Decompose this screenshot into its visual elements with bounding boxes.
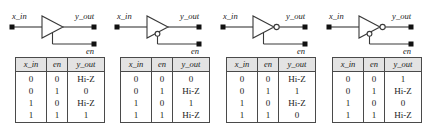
- table-cell: 0: [152, 72, 173, 86]
- table-cell: 1: [68, 109, 105, 123]
- table-cell: 0: [152, 97, 173, 109]
- table-row: 010: [16, 85, 105, 97]
- enable-inversion-bubble: [367, 31, 372, 36]
- table-cell: 0: [258, 97, 279, 109]
- table-row: 11Hi-Z: [121, 109, 210, 123]
- output-inversion-bubble: [274, 24, 279, 29]
- table-cell: 1: [227, 97, 258, 109]
- circuit-area: x_iny_outen: [105, 0, 211, 55]
- panel-tristate-buffer-active-high: x_iny_outenx_ineny_out00Hi-Z01010Hi-Z111: [0, 0, 106, 131]
- table-row: 001: [333, 72, 422, 86]
- output-terminal: [197, 25, 202, 30]
- table-cell: 0: [47, 97, 68, 109]
- table-cell: Hi-Z: [385, 85, 422, 97]
- table-row: 01Hi-Z: [333, 85, 422, 97]
- table-row: 10Hi-Z: [16, 97, 105, 109]
- table-cell: 0: [68, 85, 105, 97]
- table-cell: 0: [227, 72, 258, 86]
- column-header-x_in: x_in: [227, 58, 258, 72]
- output-label: y_out: [179, 11, 200, 21]
- figure-tristate-buffers: x_iny_outenx_ineny_out00Hi-Z01010Hi-Z111…: [0, 0, 424, 131]
- input-label: x_in: [116, 11, 132, 21]
- column-header-y_out: y_out: [68, 58, 105, 72]
- table-header-row: x_ineny_out: [121, 58, 210, 72]
- truth-table: x_ineny_out00101Hi-Z10011Hi-Z: [332, 57, 422, 123]
- truth-table-wrapper: x_ineny_out00Hi-Z01110Hi-Z110: [226, 57, 312, 123]
- table-cell: Hi-Z: [68, 97, 105, 109]
- input-label: x_in: [328, 11, 344, 21]
- column-header-en: en: [47, 58, 68, 72]
- table-cell: 1: [121, 97, 152, 109]
- truth-table-wrapper: x_ineny_out00101Hi-Z10011Hi-Z: [332, 57, 418, 123]
- truth-table: x_ineny_out00001Hi-Z10111Hi-Z: [120, 57, 210, 123]
- table-cell: 0: [227, 85, 258, 97]
- circuit-area: x_iny_outen: [0, 0, 106, 55]
- truth-table-wrapper: x_ineny_out00Hi-Z01010Hi-Z111: [15, 57, 101, 123]
- enable-label: en: [403, 46, 411, 55]
- circuit-diagram: x_iny_outen: [211, 0, 317, 55]
- table-cell: 1: [173, 97, 210, 109]
- table-row: 000: [121, 72, 210, 86]
- table-cell: 1: [152, 85, 173, 97]
- panel-tristate-inverter-active-low: x_iny_outenx_ineny_out00101Hi-Z10011Hi-Z: [317, 0, 423, 131]
- table-cell: Hi-Z: [279, 72, 316, 86]
- input-terminal: [115, 25, 120, 30]
- column-header-y_out: y_out: [173, 58, 210, 72]
- table-cell: 1: [258, 109, 279, 123]
- panel-tristate-buffer-active-low: x_iny_outenx_ineny_out00001Hi-Z10111Hi-Z: [105, 0, 211, 131]
- table-header-row: x_ineny_out: [333, 58, 422, 72]
- table-header-row: x_ineny_out: [227, 58, 316, 72]
- table-cell: 0: [173, 72, 210, 86]
- enable-inversion-bubble: [155, 31, 160, 36]
- enable-label: en: [297, 46, 305, 55]
- table-cell: 1: [364, 85, 385, 97]
- column-header-en: en: [258, 58, 279, 72]
- table-cell: 1: [16, 97, 47, 109]
- circuit-diagram: x_iny_outen: [105, 0, 211, 55]
- table-cell: 1: [47, 85, 68, 97]
- table-cell: 1: [279, 85, 316, 97]
- table-cell: 1: [333, 97, 364, 109]
- table-row: 111: [16, 109, 105, 123]
- table-cell: 0: [16, 85, 47, 97]
- table-cell: 0: [121, 72, 152, 86]
- table-header-row: x_ineny_out: [16, 58, 105, 72]
- table-cell: 0: [279, 109, 316, 123]
- column-header-y_out: y_out: [279, 58, 316, 72]
- table-row: 101: [121, 97, 210, 109]
- output-label: y_out: [74, 11, 95, 21]
- enable-label: en: [86, 46, 94, 55]
- table-cell: 1: [47, 109, 68, 123]
- table-cell: 0: [16, 72, 47, 86]
- table-cell: Hi-Z: [68, 72, 105, 86]
- truth-table: x_ineny_out00Hi-Z01010Hi-Z111: [15, 57, 105, 123]
- table-cell: 0: [258, 72, 279, 86]
- input-terminal: [327, 25, 332, 30]
- input-terminal: [221, 25, 226, 30]
- table-cell: 1: [121, 109, 152, 123]
- column-header-en: en: [152, 58, 173, 72]
- table-cell: 1: [16, 109, 47, 123]
- table-row: 00Hi-Z: [16, 72, 105, 86]
- input-label: x_in: [11, 11, 27, 21]
- table-cell: 0: [333, 72, 364, 86]
- table-cell: 0: [385, 97, 422, 109]
- input-terminal: [10, 25, 15, 30]
- table-row: 00Hi-Z: [227, 72, 316, 86]
- table-cell: 0: [364, 97, 385, 109]
- table-cell: 1: [227, 109, 258, 123]
- table-row: 11Hi-Z: [333, 109, 422, 123]
- table-cell: 0: [364, 72, 385, 86]
- panel-tristate-inverter-active-high: x_iny_outenx_ineny_out00Hi-Z01110Hi-Z110: [211, 0, 317, 131]
- table-row: 01Hi-Z: [121, 85, 210, 97]
- circuit-area: x_iny_outen: [211, 0, 317, 55]
- output-label: y_out: [285, 11, 306, 21]
- table-row: 110: [227, 109, 316, 123]
- circuit-diagram: x_iny_outen: [0, 0, 106, 55]
- column-header-y_out: y_out: [385, 58, 422, 72]
- column-header-x_in: x_in: [121, 58, 152, 72]
- column-header-x_in: x_in: [16, 58, 47, 72]
- table-cell: 0: [47, 72, 68, 86]
- table-cell: 1: [152, 109, 173, 123]
- input-label: x_in: [222, 11, 238, 21]
